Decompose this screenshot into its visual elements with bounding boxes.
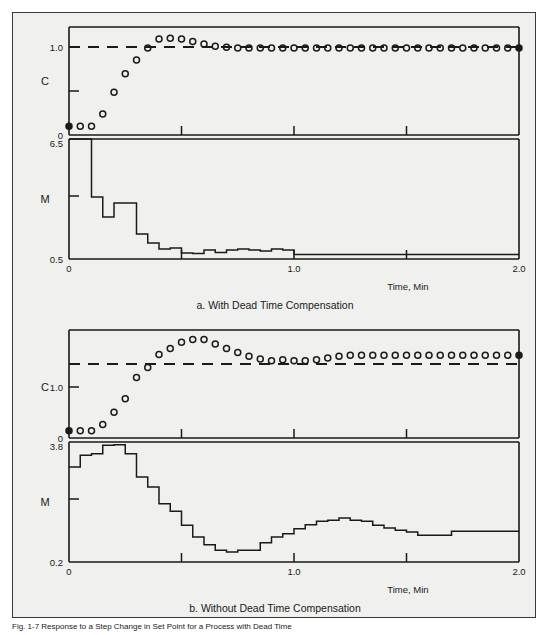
data-point xyxy=(122,396,128,402)
data-point xyxy=(257,356,263,362)
data-point xyxy=(156,36,162,42)
chart-b-m-step-trace xyxy=(69,445,519,552)
data-point xyxy=(347,45,353,51)
chart-b-m-tick-top: 3.8 xyxy=(50,441,63,452)
data-point xyxy=(505,352,511,358)
data-point xyxy=(190,39,196,45)
data-point xyxy=(404,45,410,51)
chart-b-xtick-0: 0 xyxy=(66,566,71,577)
data-point xyxy=(66,123,72,129)
data-point xyxy=(167,345,173,351)
data-point xyxy=(122,71,128,77)
data-point xyxy=(190,337,196,343)
chart-a-m-tick-bottom: 0.5 xyxy=(50,254,63,265)
data-point xyxy=(235,349,241,355)
data-point xyxy=(134,57,140,63)
chart-b-x-ticks xyxy=(182,553,407,562)
data-point xyxy=(212,341,218,347)
data-point xyxy=(66,428,72,434)
data-point xyxy=(156,352,162,358)
data-point xyxy=(460,45,466,51)
data-point xyxy=(179,36,185,42)
data-point xyxy=(77,428,83,434)
chart-b-x-axis-label: Time, Min xyxy=(387,584,428,595)
chart-b-svg: C 1.0 0 3.8 0.2 M 0 1.0 2.0 Time, Min b.… xyxy=(13,316,537,616)
chart-a-c-axis-name: C xyxy=(41,75,49,87)
data-point xyxy=(201,337,207,343)
figure-frame: 1.0 0 C 6.5 0.5 M 0 1.0 2.0 Time, Min a.… xyxy=(12,12,536,618)
data-point xyxy=(89,123,95,129)
data-point xyxy=(302,358,308,364)
data-point xyxy=(437,352,443,358)
chart-b-c-frame xyxy=(69,330,519,438)
data-point xyxy=(516,45,522,51)
data-point xyxy=(516,352,522,358)
data-point xyxy=(235,45,241,51)
chart-a-x-axis-label: Time, Min xyxy=(387,281,428,292)
data-point xyxy=(89,428,95,434)
data-point xyxy=(111,409,117,415)
panel-without-dead-time-compensation: C 1.0 0 3.8 0.2 M 0 1.0 2.0 Time, Min b.… xyxy=(13,316,535,616)
data-point xyxy=(145,364,151,370)
data-point xyxy=(347,352,353,358)
data-point xyxy=(167,35,173,41)
data-point xyxy=(359,352,365,358)
chart-b-xtick-1: 1.0 xyxy=(287,566,300,577)
data-point xyxy=(404,352,410,358)
data-point xyxy=(134,375,140,381)
panel-with-dead-time-compensation: 1.0 0 C 6.5 0.5 M 0 1.0 2.0 Time, Min a.… xyxy=(13,13,535,313)
data-point xyxy=(212,43,218,49)
chart-a-m-tick-top: 6.5 xyxy=(50,138,63,149)
chart-b-c-axis-name: C xyxy=(41,381,49,393)
data-point xyxy=(314,357,320,363)
data-point xyxy=(415,352,421,358)
chart-b-subcaption: b. Without Dead Time Compensation xyxy=(189,602,361,614)
data-point xyxy=(269,358,275,364)
chart-a-svg: 1.0 0 C 6.5 0.5 M 0 1.0 2.0 Time, Min a.… xyxy=(13,13,537,313)
chart-a-divider-ticks xyxy=(182,126,407,135)
data-point xyxy=(291,45,297,51)
data-point xyxy=(224,345,230,351)
data-point xyxy=(482,352,488,358)
chart-a-m-axis-name: M xyxy=(40,193,49,205)
chart-a-c-frame xyxy=(69,27,519,135)
data-point xyxy=(179,339,185,345)
data-point xyxy=(100,111,106,117)
data-point xyxy=(392,352,398,358)
chart-a-c-yticks xyxy=(69,47,79,91)
data-point xyxy=(325,355,331,361)
data-point xyxy=(370,352,376,358)
chart-b-xtick-2: 2.0 xyxy=(512,566,525,577)
data-point xyxy=(291,358,297,364)
data-point xyxy=(471,352,477,358)
chart-b-m-axis-name: M xyxy=(40,496,49,508)
data-point xyxy=(336,353,342,359)
data-point xyxy=(449,352,455,358)
data-point xyxy=(494,352,500,358)
data-point xyxy=(460,352,466,358)
chart-a-c-data-markers xyxy=(66,35,522,129)
chart-b-divider-ticks xyxy=(182,429,407,438)
data-point xyxy=(111,89,117,95)
data-point xyxy=(246,353,252,359)
data-point xyxy=(280,357,286,363)
chart-b-c-tick-top: 1.0 xyxy=(50,382,63,393)
chart-a-xtick-2: 2.0 xyxy=(512,263,525,274)
chart-a-subcaption: a. With Dead Time Compensation xyxy=(197,299,354,311)
figure-caption: Fig. 1-7 Response to a Step Change in Se… xyxy=(12,622,292,635)
chart-a-m-step-trace xyxy=(69,139,519,255)
chart-a-m-frame xyxy=(69,139,519,259)
data-point xyxy=(426,352,432,358)
data-point xyxy=(100,422,106,428)
chart-b-m-tick-bottom: 0.2 xyxy=(50,557,63,568)
chart-b-c-data-markers xyxy=(66,337,522,434)
chart-a-c-tick-top: 1.0 xyxy=(50,42,63,53)
chart-a-xtick-0: 0 xyxy=(66,263,71,274)
data-point xyxy=(381,352,387,358)
chart-a-xtick-1: 1.0 xyxy=(287,263,300,274)
data-point xyxy=(77,123,83,129)
